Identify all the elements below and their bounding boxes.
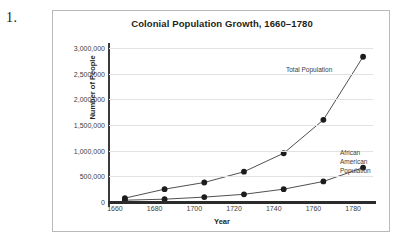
series-data-point	[201, 180, 207, 186]
series-data-point	[162, 186, 168, 192]
x-axis-tick-label: 1760	[306, 205, 322, 212]
series-data-point	[320, 179, 326, 185]
series-data-point	[201, 194, 207, 200]
y-axis-tick-labels: 0500,0001,000,0001,500,0002,000,0002,500…	[53, 48, 105, 202]
series-data-point	[320, 117, 326, 123]
series-data-point	[241, 191, 247, 197]
gridline	[109, 151, 373, 152]
x-axis-tick-label: 1660	[107, 205, 123, 212]
gridline	[109, 125, 373, 126]
y-axis-tick-label: 500,000	[80, 173, 105, 180]
series-annotation-african-american-population: African American Population	[340, 149, 371, 175]
x-axis-tick-label: 1780	[345, 205, 361, 212]
gridline	[109, 99, 373, 100]
x-axis-tick-label: 1700	[187, 205, 203, 212]
y-axis-tick-label: 1,000,000	[74, 147, 105, 154]
x-axis-title: Year	[53, 217, 391, 226]
gridline	[109, 176, 373, 177]
chart-title: Colonial Population Growth, 1660–1780	[53, 18, 391, 29]
y-axis-title: Number of People	[88, 43, 97, 133]
x-axis-line	[108, 201, 376, 204]
plot-area	[109, 48, 373, 202]
question-number: 1.	[6, 10, 18, 26]
series-annotation-total-population: Total Population	[286, 66, 332, 75]
series-data-point	[281, 186, 287, 192]
chart-figure-frame: Colonial Population Growth, 1660–1780 05…	[52, 10, 390, 232]
series-data-point	[241, 169, 247, 175]
x-axis-tick-label: 1740	[266, 205, 282, 212]
x-axis-tick-label: 1720	[226, 205, 242, 212]
series-data-point	[360, 54, 366, 60]
y-axis-tick-label: 0	[101, 199, 105, 206]
gridline	[109, 74, 373, 75]
x-axis-tick-label: 1680	[147, 205, 163, 212]
gridline	[109, 48, 373, 49]
x-axis-tick-labels: 1660168017001720174017601780	[109, 205, 373, 217]
